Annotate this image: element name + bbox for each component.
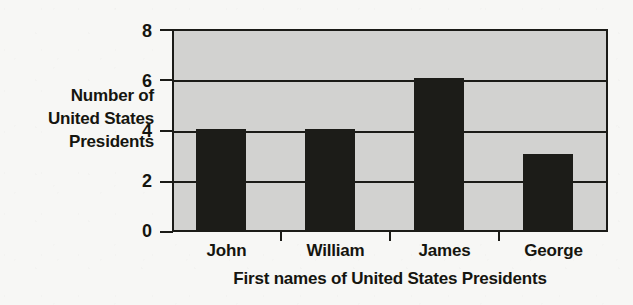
y-tick-label-6: 6 — [112, 72, 152, 90]
x-axis-title: First names of United States Presidents — [172, 268, 608, 289]
bar-william — [305, 129, 355, 230]
bar-chart-figure: Number of United States Presidents 8 6 4… — [0, 0, 633, 305]
x-category-label-william: William — [281, 240, 390, 261]
gridline-6 — [174, 80, 606, 82]
y-axis-title: Number of United States Presidents — [8, 84, 154, 153]
plot-area — [172, 29, 608, 232]
bar-james — [414, 78, 464, 230]
y-tick-label-0: 0 — [112, 222, 152, 240]
y-tick-label-4: 4 — [112, 122, 152, 140]
y-tick-label-8: 8 — [112, 22, 152, 40]
y-tick-label-2: 2 — [112, 172, 152, 190]
x-category-label-george: George — [499, 240, 608, 261]
x-category-label-john: John — [172, 240, 281, 261]
x-category-label-james: James — [390, 240, 499, 261]
bar-john — [196, 129, 246, 230]
bar-george — [523, 154, 573, 230]
